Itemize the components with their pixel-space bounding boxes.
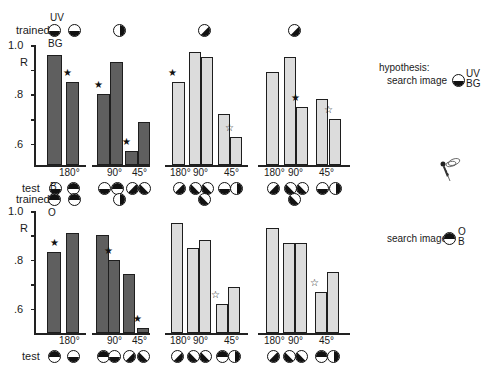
trained-pattern-icon bbox=[198, 24, 211, 37]
trained-pattern-icon bbox=[68, 193, 81, 206]
trained-color-upper: B bbox=[50, 182, 57, 192]
bar bbox=[315, 292, 327, 333]
test-pattern-icon bbox=[173, 182, 186, 195]
bar bbox=[97, 94, 110, 165]
bar bbox=[108, 260, 120, 333]
bar bbox=[216, 304, 228, 333]
filled-star-icon: ★ bbox=[63, 68, 72, 78]
test-pattern-icon bbox=[98, 182, 111, 195]
filled-star-icon: ★ bbox=[291, 93, 300, 103]
bar bbox=[189, 52, 201, 165]
bee-icon bbox=[437, 155, 463, 183]
bar bbox=[171, 223, 183, 333]
test-label: test bbox=[22, 351, 40, 362]
bar bbox=[47, 252, 61, 333]
bar bbox=[266, 228, 279, 333]
bar bbox=[187, 248, 199, 333]
bar bbox=[138, 122, 150, 165]
y-tick bbox=[31, 284, 35, 286]
filled-star-icon: ★ bbox=[104, 246, 113, 256]
angle-label-180: 180° bbox=[59, 336, 80, 346]
filled-star-icon: ★ bbox=[133, 314, 142, 324]
filled-star-icon: ★ bbox=[94, 80, 103, 90]
angle-label-45: 45° bbox=[224, 336, 239, 346]
angle-label-90: 90° bbox=[193, 336, 208, 346]
y-tick bbox=[31, 235, 35, 237]
bar bbox=[137, 328, 149, 333]
trained-label: trained bbox=[16, 194, 50, 205]
test-pattern-icon bbox=[138, 182, 151, 195]
angle-label-90: 90° bbox=[288, 336, 303, 346]
trained-color-lower: BG bbox=[48, 39, 62, 49]
y-tick bbox=[31, 94, 35, 96]
angle-label-90: 90° bbox=[107, 336, 122, 346]
bar bbox=[284, 57, 296, 165]
angle-label-45: 45° bbox=[319, 168, 334, 178]
y-tick-label: .8 bbox=[14, 255, 23, 266]
bar bbox=[266, 72, 279, 165]
filled-star-icon: ★ bbox=[168, 68, 177, 78]
test-pattern-icon bbox=[123, 350, 136, 363]
y-axis-label: R bbox=[20, 57, 28, 68]
angle-label-45: 45° bbox=[132, 336, 147, 346]
angle-label-180: 180° bbox=[264, 336, 285, 346]
y-tick bbox=[31, 309, 35, 311]
bar bbox=[329, 119, 341, 165]
bar bbox=[172, 82, 185, 165]
bar bbox=[125, 151, 138, 165]
test-pattern-icon bbox=[108, 350, 121, 363]
angle-label-180: 180° bbox=[170, 168, 191, 178]
test-pattern-icon bbox=[199, 350, 212, 363]
y-tick bbox=[31, 144, 35, 146]
trained-label: trained bbox=[16, 25, 50, 36]
search-image-label: search image bbox=[387, 234, 447, 244]
y-axis bbox=[34, 45, 36, 165]
bar bbox=[199, 240, 211, 333]
y-tick bbox=[31, 45, 35, 47]
y-tick-label: 1.0 bbox=[8, 40, 23, 51]
angle-label-180: 180° bbox=[264, 168, 285, 178]
y-tick bbox=[31, 119, 35, 121]
open-star-icon: ☆ bbox=[225, 123, 234, 133]
open-star-icon: ☆ bbox=[211, 290, 220, 300]
y-axis bbox=[34, 211, 36, 333]
search-image-pattern-icon bbox=[443, 232, 456, 245]
angle-label-90: 90° bbox=[107, 168, 122, 178]
test-pattern-icon bbox=[329, 182, 342, 195]
test-pattern-icon bbox=[48, 350, 61, 363]
angle-label-45: 45° bbox=[319, 336, 334, 346]
test-pattern-icon bbox=[295, 350, 308, 363]
trained-pattern-icon bbox=[198, 193, 211, 206]
filled-star-icon: ★ bbox=[122, 137, 131, 147]
test-pattern-icon bbox=[267, 182, 280, 195]
trained-pattern-icon bbox=[113, 193, 126, 206]
bar bbox=[295, 243, 307, 333]
test-pattern-icon bbox=[230, 182, 243, 195]
test-pattern-icon bbox=[228, 350, 241, 363]
trained-pattern-icon bbox=[113, 24, 126, 37]
bar bbox=[230, 137, 242, 165]
bar bbox=[296, 107, 308, 165]
open-star-icon: ☆ bbox=[324, 105, 333, 115]
trained-pattern-icon bbox=[48, 24, 61, 37]
angle-label-90: 90° bbox=[193, 168, 208, 178]
y-tick-label: 1.0 bbox=[8, 206, 23, 217]
trained-pattern-icon bbox=[288, 193, 301, 206]
trained-color-lower: O bbox=[48, 208, 56, 218]
test-pattern-icon bbox=[267, 350, 280, 363]
y-tick-label: .6 bbox=[14, 139, 23, 150]
y-tick bbox=[31, 260, 35, 262]
angle-label-90: 90° bbox=[288, 168, 303, 178]
y-tick bbox=[31, 70, 35, 72]
bar bbox=[283, 243, 295, 333]
y-tick bbox=[31, 211, 35, 213]
angle-label-45: 45° bbox=[132, 168, 147, 178]
y-tick-label: .8 bbox=[14, 89, 23, 100]
angle-label-180: 180° bbox=[170, 336, 191, 346]
trained-pattern-icon bbox=[68, 24, 81, 37]
test-pattern-icon bbox=[316, 182, 329, 195]
bar bbox=[47, 55, 62, 165]
bar bbox=[201, 57, 213, 165]
test-pattern-icon bbox=[67, 350, 80, 363]
test-pattern-icon bbox=[171, 350, 184, 363]
